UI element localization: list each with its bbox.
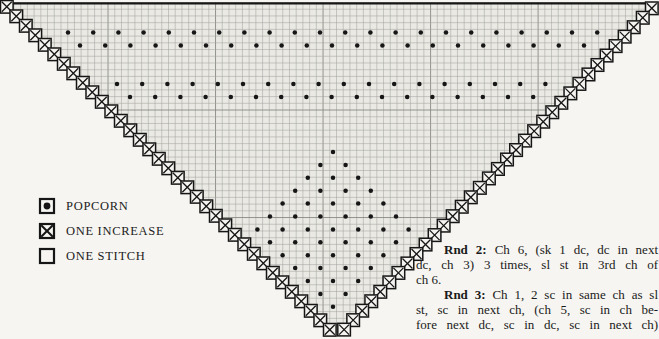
legend-item-one-stitch: ONE STITCH [38, 248, 164, 264]
instruction-line: Rnd 3: Ch 1, 2 sc in same ch as sl [416, 287, 658, 302]
instruction-line: st, sc in next ch, (ch 5, sc in ch be- [416, 302, 658, 317]
legend-item-popcorn: POPCORN [38, 198, 164, 214]
round-label: Rnd 3: [444, 287, 486, 302]
instruction-line: ch 6. [416, 272, 658, 287]
instruction-line: Rnd 2: Ch 6, (sk 1 dc, dc in next [416, 242, 658, 257]
round-label: Rnd 2: [444, 242, 487, 257]
instruction-line: dc, ch 3) 3 times, sl st in 3rd ch of [416, 257, 658, 272]
legend-label: ONE INCREASE [66, 224, 164, 239]
instruction-line: fore next dc, sc in dc, sc in next ch) [416, 317, 658, 332]
legend-label: POPCORN [66, 199, 129, 214]
popcorn-symbol-icon [38, 197, 57, 216]
stitch-symbol-icon [38, 247, 57, 266]
legend-item-one-increase: ONE INCREASE [38, 223, 164, 239]
scanned-pattern-page: POPCORN ONE INCREASE ONE STITCH Rnd 2: C… [0, 0, 659, 339]
legend-label: ONE STITCH [66, 249, 146, 264]
increase-symbol-icon [38, 222, 57, 241]
pattern-instructions: Rnd 2: Ch 6, (sk 1 dc, dc in next dc, ch… [416, 242, 658, 333]
chart-legend: POPCORN ONE INCREASE ONE STITCH [38, 198, 164, 273]
